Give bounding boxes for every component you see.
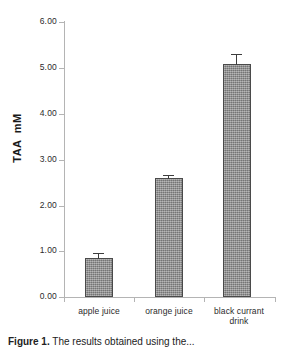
x-tick-mark [204, 297, 205, 302]
error-bar-cap-apple-juice [93, 253, 104, 254]
bar-orange-juice [155, 178, 183, 297]
category-label-line1: black currant [214, 306, 264, 316]
bar-apple-juice [85, 258, 113, 297]
x-tick-mark [275, 297, 276, 302]
x-tick-mark [64, 297, 65, 302]
y-axis-title: TAA mM [11, 93, 23, 183]
category-label-line1: apple juice [78, 306, 120, 316]
error-bar-cap-orange-juice [163, 175, 174, 176]
error-bar-stem-black-currant-drink [236, 54, 237, 65]
x-tick-mark [134, 297, 135, 302]
y-tick-mark [59, 160, 65, 161]
figure-caption-text: Figure 1. The results obtained using the… [8, 337, 286, 347]
y-tick-mark [59, 206, 65, 207]
y-tick-label: 3.00 [17, 155, 57, 164]
error-bar-cap-black-currant-drink [231, 54, 242, 55]
y-tick-mark [59, 114, 65, 115]
y-tick-label: 4.00 [17, 109, 57, 118]
bar-black-currant-drink [223, 64, 251, 297]
category-label-line1: orange juice [145, 306, 193, 316]
y-tick-mark [59, 22, 65, 23]
y-tick-label: 1.00 [17, 246, 57, 255]
category-label-line2: drink [230, 316, 249, 326]
x-axis-line [64, 297, 276, 298]
y-tick-label: 5.00 [17, 63, 57, 72]
y-tick-label: 0.00 [17, 292, 57, 301]
y-tick-mark [59, 68, 65, 69]
figure-caption: Figure 1. The results obtained using the… [8, 337, 286, 348]
figure-container: TAA mM 6.00 5.00 4.00 3.00 2.00 1.00 0.0… [0, 0, 289, 348]
y-tick-label: 2.00 [17, 201, 57, 210]
bar-chart-plot: TAA mM 6.00 5.00 4.00 3.00 2.00 1.00 0.0… [0, 0, 289, 312]
x-category-label-black-currant-drink: black currant drink [196, 306, 282, 326]
figure-caption-body: The results obtained using the... [52, 337, 194, 347]
figure-caption-label: Figure 1. [8, 337, 50, 347]
y-tick-label: 6.00 [17, 17, 57, 26]
y-tick-mark [59, 251, 65, 252]
